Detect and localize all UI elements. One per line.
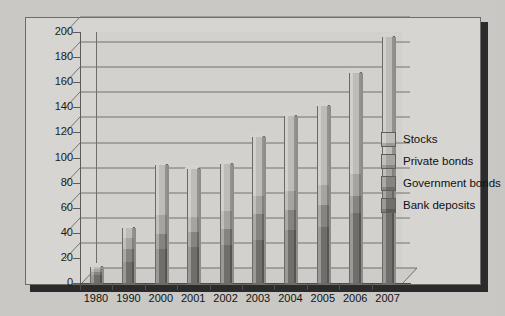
bar-segment[interactable] <box>91 269 102 272</box>
bar-column[interactable] <box>89 282 102 283</box>
bar-segment[interactable] <box>156 165 167 215</box>
bar-segment[interactable] <box>318 227 329 283</box>
legend-item[interactable]: Bank deposits <box>381 196 505 215</box>
x-tick <box>210 284 211 290</box>
bar-segment[interactable] <box>350 213 361 283</box>
bar-segment[interactable] <box>350 73 361 173</box>
bar-top-face <box>379 33 395 37</box>
x-tick-label: 2005 <box>306 292 340 304</box>
y-tick <box>73 82 80 83</box>
bar-top-face <box>217 160 233 164</box>
bar-segment[interactable] <box>123 249 134 262</box>
stacked-bar[interactable] <box>318 106 329 283</box>
y-tick-label: 0 <box>43 277 73 287</box>
x-tick-label: 2002 <box>209 292 243 304</box>
chart-frame: 020406080100120140160180200 198019902000… <box>25 17 481 285</box>
x-tick-label: 2001 <box>176 292 210 304</box>
bar-segment[interactable] <box>253 240 264 283</box>
bar-side-face <box>134 228 136 283</box>
x-tick <box>372 284 373 290</box>
bar-column[interactable] <box>283 282 296 283</box>
bar-segment[interactable] <box>123 262 134 283</box>
y-tick-label: 200 <box>43 26 73 36</box>
stacked-bar[interactable] <box>221 164 232 283</box>
bar-segment[interactable] <box>253 214 264 240</box>
x-axis-labels: 1980199020002001200220032004200520062007 <box>59 292 475 308</box>
y-axis-line <box>80 32 81 284</box>
bar-segment[interactable] <box>221 211 232 229</box>
bar-column[interactable] <box>251 282 264 283</box>
bar-segment[interactable] <box>188 169 199 217</box>
bar-segment[interactable] <box>221 164 232 212</box>
legend-swatch-stocks <box>381 132 396 147</box>
y-tick <box>73 57 80 58</box>
bar-segment[interactable] <box>253 137 264 196</box>
stacked-bar[interactable] <box>253 137 264 283</box>
bar-segment[interactable] <box>318 185 329 205</box>
y-tick <box>73 258 80 259</box>
stacked-bar[interactable] <box>188 169 199 283</box>
bar-side-face <box>167 165 169 283</box>
gridline <box>65 16 410 28</box>
y-tick <box>73 208 80 209</box>
bar-segment[interactable] <box>91 272 102 276</box>
bar-segment[interactable] <box>123 228 134 238</box>
bar-column[interactable] <box>316 282 329 283</box>
bar-segment[interactable] <box>350 174 361 197</box>
stacked-bar[interactable] <box>123 228 134 283</box>
x-tick <box>80 284 81 290</box>
stacked-bar[interactable] <box>350 73 361 283</box>
y-tick <box>73 283 80 284</box>
bar-segment[interactable] <box>350 196 361 212</box>
bar-column[interactable] <box>348 282 361 283</box>
bar-segment[interactable] <box>285 210 296 230</box>
bar-segment[interactable] <box>221 245 232 283</box>
bar-side-face <box>199 169 201 283</box>
x-tick-label: 2004 <box>273 292 307 304</box>
legend-label-private-bonds: Private bonds <box>403 153 473 169</box>
bar-segment[interactable] <box>156 249 167 283</box>
bar-side-face <box>361 73 363 283</box>
bar-segment[interactable] <box>156 234 167 249</box>
x-tick-label: 2003 <box>241 292 275 304</box>
bar-segment[interactable] <box>285 116 296 191</box>
bar-segment[interactable] <box>156 215 167 234</box>
bar-segment[interactable] <box>91 275 102 283</box>
bar-segment[interactable] <box>318 106 329 185</box>
bar-column[interactable] <box>219 282 232 283</box>
bar-column[interactable] <box>186 282 199 283</box>
y-tick-label: 20 <box>43 252 73 262</box>
y-tick-label: 60 <box>43 202 73 212</box>
stacked-bar[interactable] <box>285 116 296 283</box>
legend-item[interactable]: Government bonds <box>381 174 505 193</box>
y-tick <box>73 32 80 33</box>
y-tick <box>73 107 80 108</box>
bar-column[interactable] <box>381 282 394 283</box>
bar-segment[interactable] <box>188 217 199 232</box>
y-tick-label: 40 <box>43 227 73 237</box>
x-tick-label: 1980 <box>79 292 113 304</box>
legend-item[interactable]: Stocks <box>381 130 505 149</box>
bar-segment[interactable] <box>285 191 296 210</box>
bar-column[interactable] <box>154 282 167 283</box>
legend-item[interactable]: Private bonds <box>381 152 505 171</box>
bar-segment[interactable] <box>188 247 199 283</box>
y-tick <box>73 132 80 133</box>
y-tick-label: 100 <box>43 152 73 162</box>
stacked-bar[interactable] <box>156 165 167 283</box>
bar-segment[interactable] <box>253 196 264 214</box>
bar-segment[interactable] <box>188 232 199 247</box>
legend-swatch-private-bonds <box>381 154 396 169</box>
bar-segment[interactable] <box>318 205 329 226</box>
x-tick <box>242 284 243 290</box>
bar-segment[interactable] <box>123 238 134 249</box>
y-tick-label: 140 <box>43 101 73 111</box>
stacked-bar[interactable] <box>91 267 102 283</box>
legend-label-bank-deposits: Bank deposits <box>403 197 475 213</box>
bar-segment[interactable] <box>221 229 232 245</box>
bar-column[interactable] <box>121 282 134 283</box>
x-tick <box>177 284 178 290</box>
bar-segment[interactable] <box>285 230 296 283</box>
bar-segment[interactable] <box>91 267 102 270</box>
